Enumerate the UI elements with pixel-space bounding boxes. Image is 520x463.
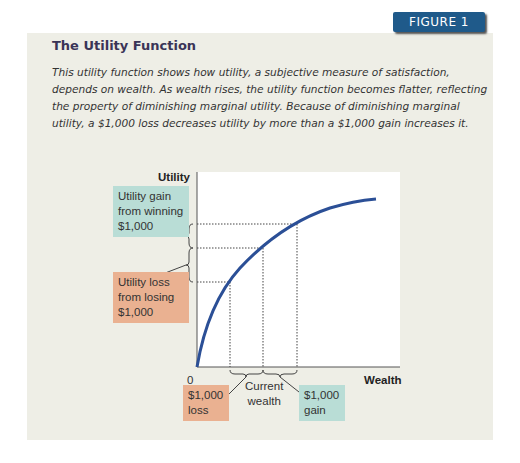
x-axis-label: Wealth (364, 372, 402, 388)
gain-box: $1,000 gain (299, 385, 345, 421)
current-wealth-label: Current wealth (240, 376, 288, 412)
utility-gain-box: Utility gain from winning $1,000 (113, 186, 189, 237)
loss-box: $1,000 loss (183, 385, 229, 421)
utility-loss-box: Utility loss from losing $1,000 (113, 272, 189, 323)
plot-area (197, 172, 400, 367)
y-axis-label: Utility (158, 169, 190, 185)
